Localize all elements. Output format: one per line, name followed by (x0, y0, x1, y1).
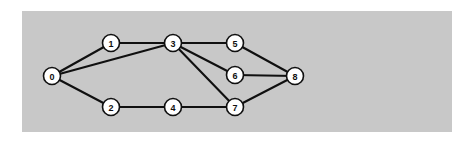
graph-node-circle-3[interactable] (165, 35, 182, 52)
graph-node-1[interactable]: 1 (103, 35, 120, 52)
graph-node-6[interactable]: 6 (227, 67, 244, 84)
graph-node-circle-4[interactable] (165, 99, 182, 116)
graph-node-8[interactable]: 8 (287, 68, 304, 85)
graph-node-circle-8[interactable] (287, 68, 304, 85)
graph-canvas: 012345678 (0, 0, 474, 145)
graph-node-4[interactable]: 4 (165, 99, 182, 116)
graph-figure: 012345678 (0, 0, 474, 145)
graph-node-7[interactable]: 7 (227, 99, 244, 116)
graph-node-5[interactable]: 5 (227, 35, 244, 52)
graph-node-circle-7[interactable] (227, 99, 244, 116)
graph-node-circle-2[interactable] (103, 99, 120, 116)
graph-node-2[interactable]: 2 (103, 99, 120, 116)
graph-node-circle-0[interactable] (44, 68, 61, 85)
graph-node-circle-5[interactable] (227, 35, 244, 52)
graph-node-0[interactable]: 0 (44, 68, 61, 85)
graph-node-3[interactable]: 3 (165, 35, 182, 52)
graph-node-circle-6[interactable] (227, 67, 244, 84)
graph-node-circle-1[interactable] (103, 35, 120, 52)
